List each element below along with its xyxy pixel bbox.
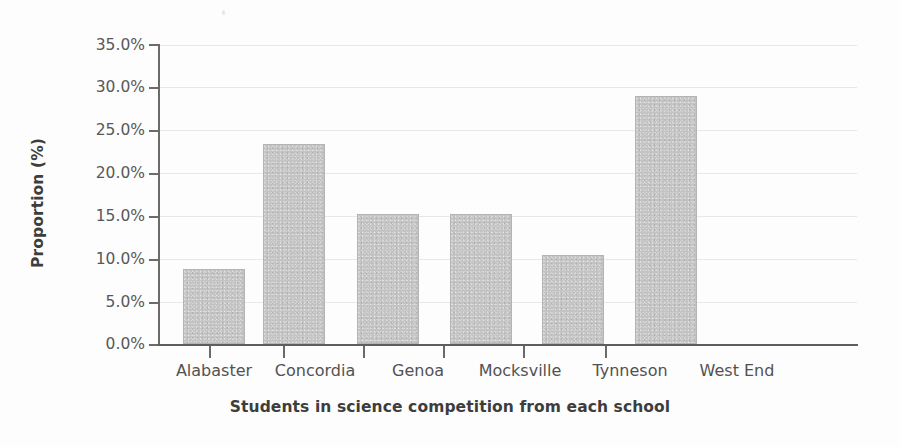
bar-alabaster [183, 269, 245, 344]
x-tick-mark-concordia [283, 346, 285, 358]
x-tick-mark-west-end [605, 346, 607, 358]
x-tick-label-west-end: West End [700, 361, 775, 380]
y-tick-label-35: 35.0% [15, 36, 145, 54]
x-axis-title: Students in science competition from eac… [0, 398, 900, 416]
x-tick-mark-mocksville [443, 346, 445, 358]
gridline-30 [160, 87, 857, 88]
x-tick-label-concordia: Concordia [275, 361, 355, 380]
x-tick-label-alabaster: Alabaster [176, 361, 252, 380]
x-tick-label-tynneson: Tynneson [592, 361, 667, 380]
gridline-35 [160, 45, 857, 46]
x-tick-label-genoa: Genoa [392, 361, 444, 380]
y-tick-label-25: 25.0% [15, 121, 145, 139]
bar-genoa [357, 214, 419, 344]
x-tick-mark-genoa [363, 346, 365, 358]
x-tick-mark-tynneson [523, 346, 525, 358]
x-axis-line [158, 344, 858, 346]
y-tick-label-5: 5.0% [15, 293, 145, 311]
x-tick-mark-alabaster [209, 346, 211, 358]
y-tick-label-30: 30.0% [15, 78, 145, 96]
bar-chart: Proportion (%) 35.0% 30.0% 25.0% 20.0% 1… [0, 0, 900, 447]
bar-tynneson [542, 255, 604, 344]
bar-west-end [635, 96, 697, 344]
y-tick-label-20: 20.0% [15, 164, 145, 182]
plot-area [160, 45, 857, 344]
scan-artifact-speck [222, 10, 225, 15]
bar-mocksville [450, 214, 512, 344]
y-tick-label-10: 10.0% [15, 250, 145, 268]
y-tick-label-0: 0.0% [15, 335, 145, 353]
bar-concordia [263, 144, 325, 344]
x-tick-label-mocksville: Mocksville [479, 361, 562, 380]
gridline-25 [160, 130, 857, 131]
y-tick-label-15: 15.0% [15, 207, 145, 225]
